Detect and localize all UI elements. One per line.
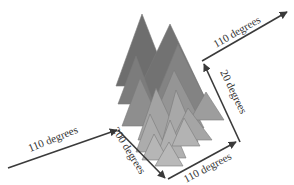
label-left: 110 degrees (26, 123, 79, 154)
label-up: 20 degrees (218, 68, 250, 116)
direction-diagram: 110 degrees 200 degrees 110 degrees 20 d… (0, 0, 294, 185)
